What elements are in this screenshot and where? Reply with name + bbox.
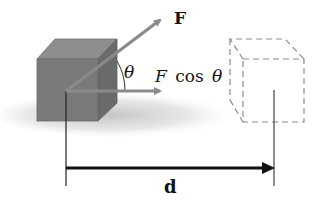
displacement-arrowhead — [262, 162, 275, 174]
angle-label: θ — [124, 62, 134, 82]
component-label-F: F — [154, 66, 168, 86]
final-block — [230, 39, 304, 122]
component-label-theta: θ — [212, 66, 222, 86]
component-label: F cos θ — [154, 66, 222, 86]
displacement-label: d — [164, 176, 177, 197]
work-diagram: F θ F cos θ d — [0, 0, 325, 203]
force-label: F — [174, 8, 186, 28]
dashed-back-top — [230, 39, 304, 59]
component-label-cos: cos — [175, 66, 203, 86]
initial-block — [37, 39, 117, 121]
diagram-canvas: F θ F cos θ d — [0, 0, 325, 203]
floor-shadow — [0, 93, 240, 137]
